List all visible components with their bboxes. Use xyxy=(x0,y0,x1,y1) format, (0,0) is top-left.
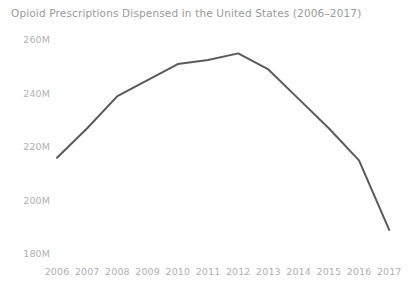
y-axis-tick-label: 200M xyxy=(4,196,50,206)
plot-area xyxy=(0,0,415,301)
series-line-path xyxy=(57,53,389,230)
chart-container: Opioid Prescriptions Dispensed in the Un… xyxy=(0,0,415,301)
x-axis: 2006200720082009201020112012201320142015… xyxy=(0,266,415,280)
x-axis-tick-label: 2017 xyxy=(369,266,409,277)
y-axis-tick-label: 220M xyxy=(4,142,50,152)
y-axis-tick-label: 180M xyxy=(4,249,50,259)
y-axis: 260M240M220M200M180M xyxy=(0,0,50,301)
y-axis-tick-label: 260M xyxy=(4,35,50,45)
line-series-opioid-prescriptions xyxy=(0,0,415,301)
y-axis-tick-label: 240M xyxy=(4,89,50,99)
